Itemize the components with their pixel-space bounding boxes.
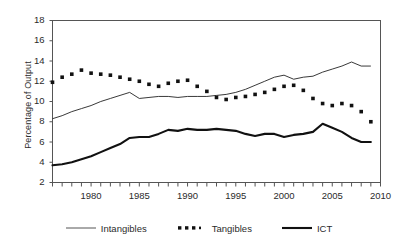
- data-marker: [253, 93, 257, 97]
- legend-label-ict: ICT: [317, 223, 332, 234]
- data-marker: [302, 89, 306, 93]
- y-tick-label: 6: [23, 136, 45, 147]
- data-marker: [350, 104, 354, 108]
- x-tick-label: 2010: [361, 190, 398, 201]
- data-marker: [359, 110, 363, 114]
- data-marker: [176, 79, 180, 83]
- y-tick-label: 14: [23, 55, 45, 66]
- chart-figure: Percentage of Output 24681012141618 1980…: [0, 0, 398, 244]
- legend-item-tangibles: Tangibles: [177, 223, 252, 234]
- data-marker: [157, 85, 161, 89]
- data-marker: [273, 88, 277, 92]
- x-tick-label: 1995: [216, 190, 256, 201]
- x-tick-label: 1990: [168, 190, 208, 201]
- x-tick-label: 1985: [119, 190, 159, 201]
- thin-line-swatch-icon: [66, 223, 96, 233]
- data-marker: [99, 72, 103, 76]
- chart-legend: Intangibles Tangibles ICT: [0, 218, 398, 238]
- data-marker: [138, 79, 142, 83]
- x-axis-ticks: [53, 183, 381, 187]
- series-ict: [53, 124, 371, 166]
- data-marker: [195, 85, 199, 89]
- legend-label-intangibles: Intangibles: [101, 223, 147, 234]
- y-tick-label: 4: [23, 156, 45, 167]
- data-marker: [340, 102, 344, 106]
- data-marker: [369, 120, 373, 124]
- data-marker: [128, 77, 132, 81]
- data-marker: [118, 75, 122, 79]
- data-marker: [244, 95, 248, 99]
- plot-canvas: [0, 0, 398, 244]
- legend-item-intangibles: Intangibles: [66, 223, 147, 234]
- data-marker: [147, 82, 151, 86]
- x-tick-label: 2000: [264, 190, 304, 201]
- legend-label-tangibles: Tangibles: [212, 223, 252, 234]
- y-tick-label: 16: [23, 34, 45, 45]
- data-marker: [186, 78, 190, 82]
- data-marker: [166, 81, 170, 85]
- series-intangibles: [53, 62, 371, 119]
- y-tick-label: 8: [23, 115, 45, 126]
- thick-line-swatch-icon: [282, 223, 312, 233]
- y-tick-label: 10: [23, 95, 45, 106]
- data-marker: [215, 96, 219, 100]
- data-marker: [263, 91, 267, 95]
- data-marker: [60, 75, 64, 79]
- data-marker: [70, 72, 74, 76]
- series-layer: [51, 62, 373, 165]
- data-marker: [282, 85, 286, 89]
- data-marker: [80, 68, 84, 72]
- data-marker: [224, 98, 228, 102]
- y-tick-label: 12: [23, 75, 45, 86]
- x-tick-label: 2005: [312, 190, 352, 201]
- y-tick-label: 2: [23, 176, 45, 187]
- x-tick-label: 1980: [71, 190, 111, 201]
- data-marker: [51, 80, 55, 84]
- legend-item-ict: ICT: [282, 223, 332, 234]
- y-tick-label: 18: [23, 14, 45, 25]
- data-marker: [234, 96, 238, 100]
- data-marker: [311, 97, 315, 101]
- data-marker: [321, 102, 325, 106]
- data-marker: [292, 84, 296, 88]
- data-marker: [89, 71, 93, 75]
- data-marker: [330, 104, 334, 108]
- data-marker: [205, 90, 209, 94]
- data-marker: [109, 73, 113, 77]
- dotted-square-swatch-icon: [177, 223, 207, 233]
